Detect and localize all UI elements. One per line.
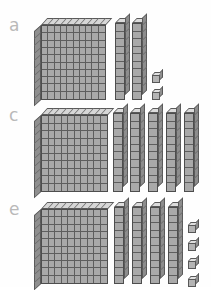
ones-unit-cube [188, 240, 199, 251]
rod-unit-cell [169, 231, 177, 239]
rod-unit-cell [116, 69, 124, 77]
rod-unit-cell [133, 24, 141, 32]
rod-unit-cell [167, 137, 175, 145]
rod-front-face [115, 23, 125, 100]
rod-unit-cell [131, 168, 139, 176]
tens-rod [150, 202, 165, 284]
flat-unit-cell [99, 48, 105, 55]
rod-unit-cell [133, 261, 141, 269]
ones-unit-cube [188, 258, 199, 269]
rod-unit-cell [149, 145, 157, 153]
rod-unit-cell [151, 246, 159, 254]
rod-unit-cell [167, 168, 175, 176]
rod-unit-cell [167, 160, 175, 168]
rod-unit-cell [133, 223, 141, 231]
hundreds-flat [34, 108, 108, 192]
rod-unit-cell [115, 231, 123, 239]
rod-unit-cell [151, 261, 159, 269]
rod-unit-cell [116, 24, 124, 32]
rod-unit-cell [116, 77, 124, 85]
ones-unit-cube [152, 72, 163, 83]
rod-unit-cell [185, 137, 193, 145]
flat-unit-cell [99, 63, 105, 70]
rod-unit-cell [133, 77, 141, 85]
rod-front-face [130, 113, 140, 192]
rod-unit-cell [151, 231, 159, 239]
rod-unit-cell [131, 114, 139, 122]
tens-rod [166, 108, 181, 192]
rod-unit-cell [185, 122, 193, 130]
flat-unit-cell [101, 254, 108, 261]
rod-unit-cell [169, 268, 177, 276]
rod-unit-cell [116, 47, 124, 55]
ones-unit-cube [188, 222, 199, 233]
unit-front-face [152, 75, 160, 83]
rod-side-bevel [176, 103, 181, 187]
rod-unit-cell [169, 246, 177, 254]
flat-unit-cell [99, 55, 105, 62]
flat-left-bevel [34, 209, 41, 290]
tens-rod [148, 108, 163, 192]
unit-front-face [188, 225, 196, 233]
unit-front-face [152, 92, 160, 100]
rod-unit-cell [169, 276, 177, 284]
flat-top-bevel [41, 202, 114, 209]
flat-left-bevel [34, 115, 41, 198]
rod-unit-cell [115, 276, 123, 284]
rod-unit-cell [167, 152, 175, 160]
rod-unit-cell [114, 176, 122, 184]
rod-unit-cell [151, 268, 159, 276]
flat-top-bevel [41, 18, 112, 25]
rod-unit-cell [114, 152, 122, 160]
rod-unit-cell [149, 137, 157, 145]
flat-left-bevel [34, 25, 41, 106]
rod-unit-cell [131, 137, 139, 145]
rod-unit-cell [149, 152, 157, 160]
flat-unit-cell [101, 261, 108, 268]
tens-rod [113, 108, 128, 192]
flat-unit-cell [99, 41, 105, 48]
rod-unit-cell [131, 183, 139, 191]
rod-front-face [114, 207, 124, 284]
rod-side-bevel [124, 197, 129, 279]
rod-unit-cell [169, 216, 177, 224]
block-row-a: a [0, 14, 211, 100]
rod-side-bevel [140, 103, 145, 187]
rod-unit-cell [114, 145, 122, 153]
tens-rod [114, 202, 129, 284]
rod-unit-cell [114, 129, 122, 137]
rod-side-bevel [178, 197, 183, 279]
rod-side-bevel [125, 13, 130, 95]
rod-unit-cell [133, 54, 141, 62]
rod-unit-cell [131, 176, 139, 184]
rod-side-bevel [158, 103, 163, 187]
rod-front-face [184, 113, 194, 192]
rod-unit-cell [114, 183, 122, 191]
flat-unit-cell [99, 26, 105, 33]
unit-side-face [196, 273, 199, 284]
rod-unit-cell [169, 238, 177, 246]
rod-unit-cell [114, 122, 122, 130]
rod-side-bevel [142, 13, 147, 95]
rod-front-face [132, 23, 142, 100]
rod-unit-cell [185, 129, 193, 137]
flat-unit-cell [101, 217, 108, 224]
flat-unit-cell [101, 268, 108, 275]
rod-unit-cell [116, 92, 124, 100]
rod-unit-cell [116, 39, 124, 47]
rod-unit-cell [169, 261, 177, 269]
rod-unit-cell [133, 253, 141, 261]
row-label-a: a [9, 17, 19, 34]
tens-rod [132, 202, 147, 284]
rod-unit-cell [133, 32, 141, 40]
rod-unit-cell [185, 114, 193, 122]
rod-unit-cell [116, 54, 124, 62]
rod-unit-cell [115, 246, 123, 254]
unit-side-face [160, 86, 163, 97]
rod-unit-cell [115, 268, 123, 276]
rod-unit-cell [131, 122, 139, 130]
rod-unit-cell [115, 208, 123, 216]
rod-unit-cell [149, 122, 157, 130]
rod-unit-cell [169, 253, 177, 261]
